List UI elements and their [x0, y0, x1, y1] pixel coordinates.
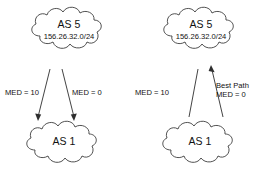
right-panel-left-link-label: MED = 10 [135, 88, 169, 97]
right-lower-cloud-title: AS 1 [189, 135, 212, 147]
left-panel-lower-cloud: AS 1 [27, 121, 96, 162]
left-panel-right-link-arrow-icon [71, 113, 77, 121]
left-panel-left-link-line [38, 69, 50, 117]
left-panel-left-link-arrow-icon [35, 113, 41, 121]
right-panel-left-link-line [189, 69, 198, 117]
right-panel-upper-cloud: AS 5 156.26.32.0/24 [164, 7, 233, 48]
right-upper-cloud-title: AS 5 [190, 18, 213, 30]
right-upper-cloud-subtitle: 156.26.32.0/24 [176, 32, 227, 41]
left-panel-upper-cloud: AS 5 156.26.32.0/24 [32, 7, 101, 48]
left-panel-right-link-label: MED = 0 [72, 88, 102, 97]
right-panel-right-link-label: MED = 0 [216, 90, 246, 99]
left-panel-left-link-label: MED = 10 [5, 88, 39, 97]
left-lower-cloud-title: AS 1 [53, 135, 76, 147]
left-upper-cloud-title: AS 5 [58, 18, 81, 30]
panel-left: AS 5 156.26.32.0/24 MED = 10 MED = 0 AS … [5, 7, 102, 162]
panel-right: AS 5 156.26.32.0/24 MED = 10 Best Path M… [135, 7, 249, 162]
right-panel-lower-cloud: AS 1 [163, 121, 232, 162]
left-upper-cloud-subtitle: 156.26.32.0/24 [44, 32, 95, 41]
right-panel-right-link-arrow-icon [209, 65, 215, 72]
diagram-canvas: AS 5 156.26.32.0/24 MED = 10 MED = 0 AS … [0, 0, 260, 179]
right-panel-right-link-note: Best Path [216, 81, 249, 90]
